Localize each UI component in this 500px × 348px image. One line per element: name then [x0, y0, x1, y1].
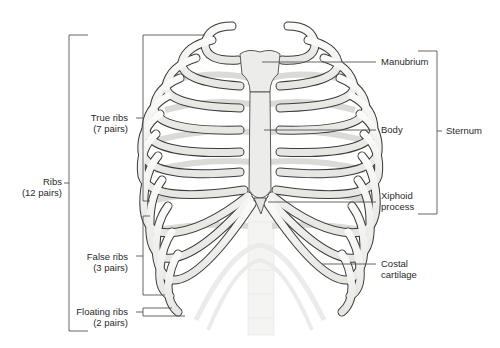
label-body-text: Body	[381, 124, 403, 135]
label-true-ribs-count: (7 pairs)	[91, 123, 128, 134]
label-false-ribs-count: (3 pairs)	[87, 262, 128, 273]
label-floating-ribs-title: Floating ribs	[76, 306, 128, 317]
label-ribs: Ribs (12 pairs)	[22, 176, 62, 198]
sternum-body	[249, 92, 271, 198]
label-body: Body	[381, 124, 403, 135]
ribs-left	[141, 26, 252, 312]
rib-cage-illustration	[0, 0, 500, 348]
label-manubrium-text: Manubrium	[381, 56, 429, 67]
label-xiphoid-process: Xiphoid process	[381, 190, 414, 212]
label-floating-ribs: Floating ribs (2 pairs)	[76, 306, 128, 328]
label-xiphoid-line1: Xiphoid	[381, 190, 414, 201]
label-ribs-title: Ribs	[22, 176, 62, 187]
label-sternum-text: Sternum	[446, 125, 482, 136]
label-manubrium: Manubrium	[381, 56, 429, 67]
label-costal-cartilage: Costal cartilage	[381, 258, 417, 280]
label-false-ribs: False ribs (3 pairs)	[87, 251, 128, 273]
label-xiphoid-line2: process	[381, 201, 414, 212]
rib-cage-diagram: Ribs (12 pairs) True ribs (7 pairs) Fals…	[0, 0, 500, 348]
label-sternum: Sternum	[446, 125, 482, 136]
label-false-ribs-title: False ribs	[87, 251, 128, 262]
label-ribs-count: (12 pairs)	[22, 187, 62, 198]
label-costal-line2: cartilage	[381, 269, 417, 280]
label-floating-ribs-count: (2 pairs)	[76, 317, 128, 328]
manubrium	[240, 50, 280, 92]
ribs-right	[268, 26, 379, 312]
label-costal-line1: Costal	[381, 258, 417, 269]
label-true-ribs: True ribs (7 pairs)	[91, 112, 128, 134]
label-true-ribs-title: True ribs	[91, 112, 128, 123]
